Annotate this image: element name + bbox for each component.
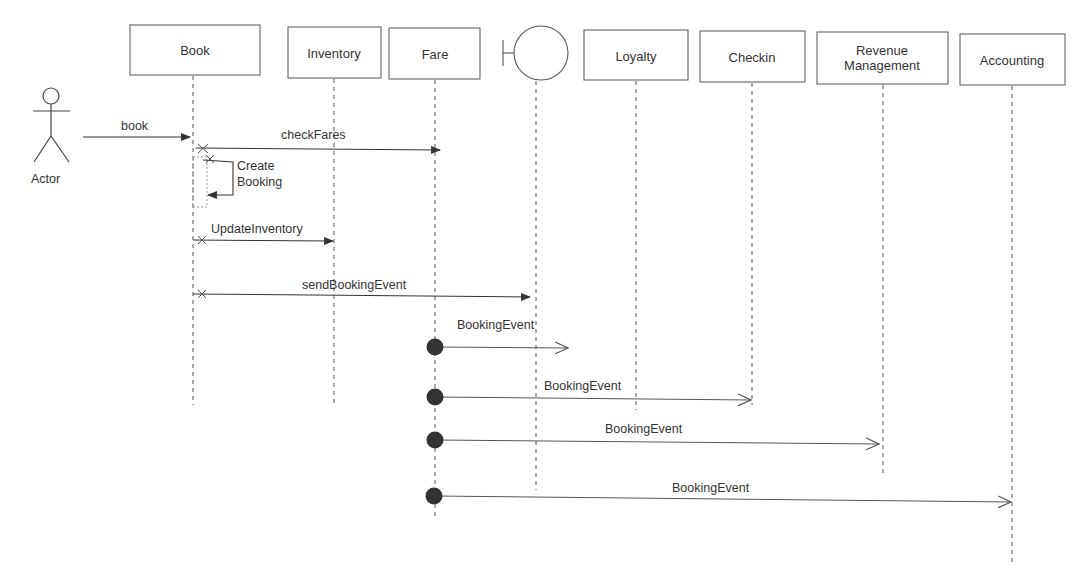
message-book[interactable]: book <box>83 119 190 137</box>
svg-text:BookingEvent: BookingEvent <box>672 481 750 495</box>
sequence-diagram: Actor Book Inventory Fare Loyalty Checki… <box>0 0 1088 581</box>
found-message-dot-icon <box>426 488 443 505</box>
svg-text:book: book <box>121 119 149 133</box>
actor-head-icon <box>43 88 59 104</box>
found-message-dot-icon <box>427 389 444 406</box>
message-bookingevent-4[interactable]: BookingEvent <box>426 481 1012 505</box>
found-message-dot-icon <box>427 432 444 449</box>
participant-book-label: Book <box>180 43 210 58</box>
message-checkfares[interactable]: checkFares <box>196 128 440 153</box>
message-bookingevent-2[interactable]: BookingEvent <box>427 379 752 406</box>
boundary-icon[interactable] <box>503 26 568 80</box>
participant-loyalty-label: Loyalty <box>615 49 657 64</box>
found-message-dot-icon <box>427 339 444 356</box>
message-sendbookingevent[interactable]: sendBookingEvent <box>193 278 530 298</box>
svg-text:BookingEvent: BookingEvent <box>457 318 535 332</box>
message-bookingevent-1[interactable]: BookingEvent <box>427 318 569 356</box>
participant-inventory-label: Inventory <box>307 46 361 61</box>
activation-book <box>193 157 207 207</box>
participant-revenue-label-1: Revenue <box>856 43 908 58</box>
svg-text:checkFares: checkFares <box>281 128 346 142</box>
participant-fare-label: Fare <box>422 47 449 62</box>
message-create-booking[interactable]: Create Booking <box>203 155 282 195</box>
participant-revenue-label-2: Management <box>844 58 920 73</box>
participant-accounting-label: Accounting <box>980 53 1044 68</box>
svg-text:sendBookingEvent: sendBookingEvent <box>302 278 407 292</box>
svg-text:UpdateInventory: UpdateInventory <box>211 222 303 236</box>
svg-text:BookingEvent: BookingEvent <box>544 379 622 393</box>
participant-checkin-label: Checkin <box>729 50 776 65</box>
actor-label: Actor <box>31 172 60 186</box>
svg-text:Booking: Booking <box>237 175 282 189</box>
message-updateinventory[interactable]: UpdateInventory <box>193 222 333 244</box>
svg-text:BookingEvent: BookingEvent <box>605 422 683 436</box>
actor <box>33 88 70 162</box>
message-bookingevent-3[interactable]: BookingEvent <box>427 422 880 449</box>
svg-text:Create: Create <box>237 159 275 173</box>
